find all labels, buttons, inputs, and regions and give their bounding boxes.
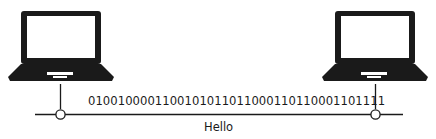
right-node-circle bbox=[371, 110, 380, 119]
binary-data-label: 0100100001100101011011000110110001101111 bbox=[88, 94, 385, 108]
laptop-icon bbox=[322, 11, 428, 81]
network-diagram bbox=[0, 0, 436, 139]
left-node-circle bbox=[56, 110, 65, 119]
laptop-icon bbox=[8, 11, 114, 81]
decoded-text-label: Hello bbox=[204, 120, 233, 134]
